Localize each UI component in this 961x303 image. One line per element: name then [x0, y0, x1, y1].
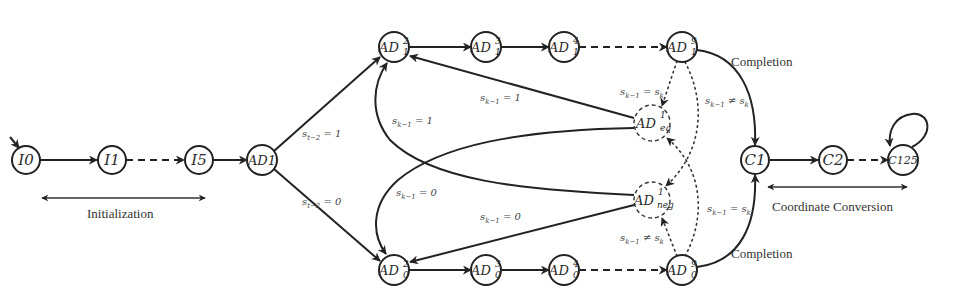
- node-ad1-4: AD 4 1: [548, 32, 579, 62]
- node-superscript: 2: [402, 36, 409, 46]
- node-i1: I1: [98, 146, 126, 174]
- state-machine-diagram: I0 I1 I5 AD1 AD 2 1 AD 3 1 AD: [0, 0, 961, 303]
- node-label: AD: [666, 263, 687, 278]
- node-ad-neg: AD 1 neg: [633, 182, 674, 218]
- label-ad09-adneg: sk−1 ≠ sk: [620, 232, 664, 246]
- edge-start-i0: [10, 137, 19, 148]
- label-ad19-adneg: sk−1 ≠ sk: [705, 95, 749, 109]
- edge-adneg-ad02: [410, 205, 634, 262]
- node-superscript: 9: [691, 259, 697, 269]
- node-subscript: neg: [657, 200, 674, 210]
- label-completion-bottom: Completion: [731, 246, 793, 261]
- node-label: AD: [470, 263, 491, 278]
- node-subscript: eq: [660, 123, 671, 133]
- node-superscript: 2: [402, 259, 409, 269]
- edge-ad09-adeq: [667, 138, 698, 256]
- label-completion-top: Completion: [731, 54, 793, 69]
- node-superscript: 1: [658, 187, 664, 197]
- node-label: AD: [548, 263, 569, 278]
- node-superscript: 4: [572, 259, 579, 269]
- edge-ad09-adneg: [662, 218, 677, 256]
- label-ad09-adeq: sk−1 = sk: [707, 203, 751, 217]
- node-label: AD: [378, 263, 399, 278]
- node-label: I0: [17, 151, 34, 169]
- node-superscript: 3: [495, 259, 501, 269]
- node-ad0-3: AD 3 0: [470, 255, 501, 285]
- label-adneg-ad12: sk−1 = 1: [392, 115, 433, 129]
- node-subscript: 1: [691, 47, 697, 57]
- edge-c125-self-loop: [890, 114, 928, 147]
- node-ad1-2: AD 2 1: [378, 32, 409, 62]
- node-label: I5: [190, 151, 206, 169]
- node-c1: C1: [741, 146, 769, 174]
- edge-ad1-ad02: [274, 169, 380, 261]
- node-label: AD: [633, 193, 654, 208]
- node-subscript: 0: [495, 270, 501, 280]
- node-subscript: 1: [403, 47, 409, 57]
- label-coordinate-conversion: Coordinate Conversion: [772, 199, 893, 214]
- label-adeq-ad02: sk−1 = 0: [396, 187, 437, 201]
- node-subscript: 1: [573, 47, 579, 57]
- node-ad0-9: AD 9 0: [666, 255, 697, 285]
- node-subscript: 0: [573, 270, 579, 280]
- node-label: C1: [744, 151, 765, 169]
- node-ad1-9: AD 9 1: [666, 32, 697, 62]
- node-superscript: 9: [691, 36, 697, 46]
- node-superscript: 3: [495, 36, 501, 46]
- node-i5: I5: [185, 146, 213, 174]
- node-label: AD: [548, 40, 569, 55]
- node-label: AD: [635, 116, 656, 131]
- node-subscript: 0: [691, 270, 697, 280]
- node-subscript: 0: [403, 270, 409, 280]
- node-ad-eq: AD 1 eq: [634, 105, 671, 141]
- node-ad1: AD1: [247, 145, 277, 175]
- node-label: AD: [378, 40, 399, 55]
- node-label: AD1: [247, 153, 276, 168]
- node-superscript: 4: [572, 36, 579, 46]
- node-label: C125: [888, 154, 917, 167]
- node-c125: C125: [888, 145, 918, 175]
- node-subscript: 1: [495, 47, 501, 57]
- label-adeq-ad12: sk−1 = 1: [480, 92, 521, 106]
- node-i0: I0: [12, 146, 40, 174]
- edge-ad19-adeq: [662, 61, 677, 106]
- edge-adeq-ad12: [410, 56, 634, 118]
- node-ad0-2: AD 2 0: [378, 255, 409, 285]
- edges: [10, 47, 927, 270]
- label-ad19-adeq: sk−1 = sk: [620, 86, 664, 100]
- node-superscript: 1: [660, 110, 666, 120]
- node-c2: C2: [819, 146, 847, 174]
- node-label: C2: [822, 151, 843, 169]
- label-st2-eq1: st−2 = 1: [302, 128, 341, 142]
- node-label: AD: [666, 40, 687, 55]
- node-ad1-3: AD 3 1: [470, 32, 501, 62]
- node-ad0-4: AD 4 0: [548, 255, 579, 285]
- node-label: I1: [103, 151, 119, 169]
- label-initialization: Initialization: [87, 206, 154, 221]
- node-label: AD: [470, 40, 491, 55]
- label-adneg-ad02: sk−1 = 0: [480, 211, 521, 225]
